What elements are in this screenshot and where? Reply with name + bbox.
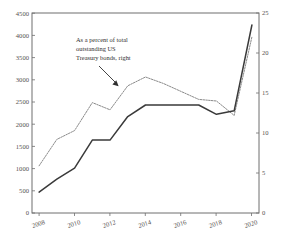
x-tick-group-4: 2016 — [173, 213, 188, 229]
line-chart: 0 500 1000 1500 2000 2500 — [0, 0, 291, 240]
right-tick-label: 10 — [262, 129, 269, 136]
annotation-line-2: outstanding US — [76, 45, 116, 52]
x-tick-label: 2020 — [243, 218, 258, 229]
right-tick-label: 25 — [262, 9, 269, 16]
left-tick-label: 2500 — [16, 98, 30, 105]
series-line-level — [39, 25, 252, 192]
x-tick-label: 2010 — [66, 218, 81, 229]
left-tick-label: 0 — [26, 209, 30, 216]
left-tick-group-0: 0 — [26, 209, 35, 216]
annotation-arrow-head — [112, 80, 118, 86]
x-tick-label: 2008 — [31, 218, 46, 229]
x-tick-label: 2016 — [173, 218, 188, 229]
x-tick-group-3: 2014 — [137, 213, 152, 229]
left-tick-label: 2000 — [16, 121, 30, 128]
left-tick-label: 4000 — [16, 32, 30, 39]
x-tick-label: 2014 — [137, 218, 152, 229]
chart-container: 0 500 1000 1500 2000 2500 — [0, 0, 291, 240]
series-line-percent-of-treasury — [39, 37, 252, 166]
left-tick-group-1: 500 — [19, 187, 35, 194]
right-tick-label: 0 — [262, 209, 266, 216]
x-tick-group-5: 2018 — [208, 213, 223, 229]
right-tick-group-2: 10 — [256, 129, 269, 136]
right-tick-label: 20 — [262, 49, 269, 56]
right-tick-group-5: 25 — [256, 9, 269, 16]
right-axis: 0 5 10 15 20 25 — [256, 9, 269, 216]
x-axis: 2008 2010 2012 2014 2016 2018 — [31, 213, 259, 229]
left-tick-label: 1000 — [16, 165, 30, 172]
annotation-callout: As a percent of total outstanding US Tre… — [76, 36, 131, 86]
annotation-line-1: As a percent of total — [76, 36, 128, 43]
x-tick-group-1: 2010 — [66, 213, 81, 229]
left-tick-label: 3500 — [16, 54, 30, 61]
x-tick-label: 2012 — [102, 218, 117, 229]
left-tick-label: 3000 — [16, 76, 30, 83]
left-tick-label: 1500 — [16, 143, 30, 150]
left-tick-label: 4500 — [16, 10, 30, 17]
left-tick-label: 500 — [19, 187, 30, 194]
x-tick-group-6: 2020 — [243, 213, 258, 229]
right-tick-group-0: 0 — [256, 209, 266, 216]
right-tick-group-3: 15 — [256, 89, 269, 96]
annotation-line-3: Treasury bonds, right — [76, 54, 131, 61]
x-tick-group-0: 2008 — [31, 213, 46, 229]
right-tick-label: 5 — [262, 169, 266, 176]
annotation-arrow-line — [99, 66, 117, 84]
x-tick-label: 2018 — [208, 218, 223, 229]
right-tick-group-4: 20 — [256, 49, 269, 56]
right-tick-group-1: 5 — [256, 169, 266, 176]
x-tick-group-2: 2012 — [102, 213, 117, 229]
right-tick-label: 15 — [262, 89, 269, 96]
